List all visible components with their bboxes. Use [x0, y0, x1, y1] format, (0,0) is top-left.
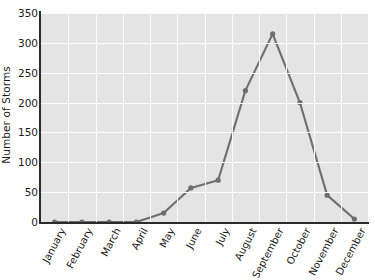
vertical-gridline — [286, 13, 287, 222]
x-tick-label-text: February — [65, 226, 96, 270]
data-point-july — [216, 178, 221, 183]
vertical-gridline — [177, 13, 178, 222]
vertical-gridline — [232, 13, 233, 222]
x-tick-label-text: August — [232, 226, 258, 262]
data-point-june — [188, 185, 193, 190]
x-tick-label-text: July — [213, 226, 231, 247]
vertical-gridline — [123, 13, 124, 222]
plot-area — [41, 13, 368, 222]
vertical-gridline — [150, 13, 151, 222]
x-tick-label-text: March — [98, 226, 122, 258]
vertical-gridline — [68, 13, 69, 222]
vertical-gridline — [341, 13, 342, 222]
x-tick-label-text: January — [40, 226, 68, 265]
x-tick-label-text: April — [129, 226, 149, 251]
y-tick-label: 150 — [8, 126, 38, 138]
vertical-gridline — [205, 13, 206, 222]
x-tick-label-text: October — [285, 226, 314, 267]
y-axis-tick-labels: 050100150200250300350 — [8, 0, 38, 280]
data-point-september — [270, 31, 275, 36]
x-tick-label-text: June — [184, 226, 204, 250]
y-tick-label: 250 — [8, 67, 38, 79]
y-tick-label: 50 — [8, 186, 38, 198]
y-tick-label: 300 — [8, 37, 38, 49]
y-tick-label: 100 — [8, 156, 38, 168]
vertical-gridline — [314, 13, 315, 222]
y-tick-label: 0 — [8, 216, 38, 228]
vertical-gridline — [96, 13, 97, 222]
data-point-may — [161, 210, 166, 215]
data-point-august — [243, 88, 248, 93]
vertical-gridline — [259, 13, 260, 222]
y-axis-line — [39, 11, 41, 224]
y-tick-label: 350 — [8, 7, 38, 19]
y-tick-label: 200 — [8, 97, 38, 109]
x-tick-label-text: May — [157, 226, 176, 249]
storms-line-chart: Number of Storms 050100150200250300350 J… — [0, 0, 375, 280]
data-point-december — [352, 216, 357, 221]
